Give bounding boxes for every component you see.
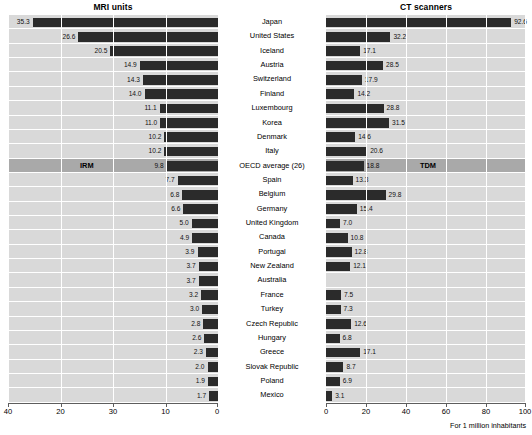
bar-row: 7.3 — [326, 302, 526, 316]
axis-tick — [326, 403, 327, 407]
category-label: Germany — [220, 202, 324, 216]
ct-bar — [326, 334, 340, 344]
ct-bar — [326, 362, 343, 372]
axis-tick-label: 100 — [510, 407, 532, 416]
bar-row: 12.8 — [326, 245, 526, 259]
category-label-column: JapanUnited StatesIcelandAustriaSwitzerl… — [220, 15, 324, 403]
gridline — [366, 15, 367, 403]
category-label: Australia — [220, 273, 324, 287]
category-label: Italy — [220, 144, 324, 158]
axis-tick — [446, 403, 447, 407]
category-label: United States — [220, 29, 324, 43]
mri-inline-tag: IRM — [80, 161, 94, 171]
gridline — [8, 15, 9, 403]
mri-bar — [143, 75, 218, 85]
mri-bar — [204, 334, 218, 344]
bar-row: 92.6 — [326, 15, 526, 29]
axis-tick — [525, 403, 526, 407]
ct-value-label: 6.9 — [343, 376, 352, 386]
category-label: Luxembourg — [220, 101, 324, 115]
mri-chart-title: MRI units — [8, 2, 218, 12]
ct-value-label: 28.5 — [386, 60, 399, 70]
bar-row: 14.6 — [326, 130, 526, 144]
mri-value-label: 6.8 — [170, 190, 179, 200]
mri-bar — [198, 247, 218, 257]
mri-value-label: 10.2 — [149, 132, 162, 142]
mri-bar — [208, 362, 219, 372]
ct-value-label: 32.2 — [393, 32, 406, 42]
axis-tick-label: 40 — [391, 407, 421, 416]
category-label: Japan — [220, 15, 324, 29]
ct-bar — [326, 377, 340, 387]
mri-value-label: 20.5 — [95, 46, 108, 56]
bar-row: 10.8 — [326, 230, 526, 244]
axis-tick — [166, 403, 167, 407]
category-label: Austria — [220, 58, 324, 72]
bar-row: 13.3 — [326, 173, 526, 187]
mri-plot-area: 35.326.620.514.914.314.011.111.010.210.2… — [8, 15, 218, 403]
mri-bar — [209, 391, 218, 401]
ct-bar — [326, 305, 341, 315]
mri-value-label: 4.9 — [180, 233, 189, 243]
axis-tick — [486, 403, 487, 407]
ct-value-label: 14.6 — [358, 132, 371, 142]
gridline — [61, 15, 62, 403]
category-label: Iceland — [220, 44, 324, 58]
mri-x-axis: 402030100 — [8, 403, 218, 423]
category-label: Canada — [220, 230, 324, 244]
ct-bar — [326, 233, 348, 243]
axis-tick — [113, 403, 114, 407]
mri-bar — [164, 132, 218, 142]
ct-bar — [326, 118, 389, 128]
mri-bar — [160, 118, 218, 128]
ct-value-label: 12.1 — [353, 261, 366, 271]
ct-value-label: 28.8 — [387, 103, 400, 113]
ct-bar — [326, 247, 352, 257]
bar-row: 31.5 — [326, 116, 526, 130]
mri-value-label: 11.1 — [144, 103, 156, 113]
ct-bar — [326, 18, 511, 28]
mri-bar — [110, 46, 218, 56]
ct-bar — [326, 219, 340, 229]
ct-value-label: 7.3 — [344, 304, 353, 314]
axis-tick-label: 60 — [431, 407, 461, 416]
axis-tick — [406, 403, 407, 407]
mri-bar — [206, 348, 218, 358]
ct-bar — [326, 104, 384, 114]
bar-row: 32.2 — [326, 29, 526, 43]
axis-tick — [61, 403, 62, 407]
ct-bar — [326, 75, 362, 85]
category-label: Turkey — [220, 302, 324, 316]
mri-value-label: 3.0 — [190, 304, 199, 314]
bar-row: 3.1 — [326, 388, 526, 402]
mri-value-label: 14.3 — [127, 75, 140, 85]
ct-value-label: 10.8 — [351, 233, 364, 243]
axis-tick — [366, 403, 367, 407]
ct-bar — [326, 32, 390, 42]
axis-tick-label: 0 — [311, 407, 341, 416]
mri-bar — [178, 176, 218, 186]
ct-value-label: 8.7 — [346, 362, 355, 372]
mri-bar — [192, 219, 218, 229]
bar-row: 12.1 — [326, 259, 526, 273]
mri-value-label: 10.2 — [149, 146, 162, 156]
ct-bar — [326, 190, 386, 200]
mri-value-label: 14.9 — [124, 60, 137, 70]
ct-bar — [326, 89, 354, 99]
axis-tick-label: 40 — [0, 407, 23, 416]
category-label: Greece — [220, 345, 324, 359]
mri-value-label: 3.7 — [186, 276, 195, 286]
category-label: Finland — [220, 87, 324, 101]
ct-value-label: 6.8 — [343, 333, 352, 343]
category-label: Slovak Republic — [220, 360, 324, 374]
category-label: New Zealand — [220, 259, 324, 273]
ct-value-label: 18.8 — [367, 161, 380, 171]
ct-bar — [326, 61, 383, 71]
chart-figure: MRI units CT scanners 35.326.620.514.914… — [0, 0, 532, 435]
footnote: For 1 million inhabitants — [450, 421, 526, 430]
bar-row: 7.5 — [326, 288, 526, 302]
gridline — [166, 15, 167, 403]
category-label: Switzerland — [220, 72, 324, 86]
mri-value-label: 2.6 — [192, 333, 201, 343]
ct-bar — [326, 147, 367, 157]
